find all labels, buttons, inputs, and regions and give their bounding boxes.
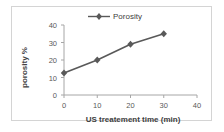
chart-plot-frame: Porosity 40 30 20 10 0 xyxy=(11,6,212,121)
data-point-marker xyxy=(94,57,100,64)
data-point-marker xyxy=(127,41,133,48)
x-tick-label-20: 20 xyxy=(126,101,134,110)
y-tick-label-10: 10 xyxy=(49,74,57,83)
x-tick-label-10: 10 xyxy=(93,101,101,110)
x-axis-title: US treatement time (min) xyxy=(48,115,218,124)
y-axis-title: porosity % xyxy=(20,38,29,98)
x-tick-label-40: 40 xyxy=(193,101,201,110)
x-tick-label-30: 30 xyxy=(160,101,168,110)
data-point-marker xyxy=(161,30,167,37)
chart-plot-area: 40 30 20 10 0 0 10 20 30 40 xyxy=(12,7,213,122)
y-tick-label-30: 30 xyxy=(49,39,57,48)
y-tick-label-40: 40 xyxy=(49,21,57,30)
chart-figure: Porosity 40 30 20 10 0 xyxy=(0,0,224,132)
data-point-marker xyxy=(61,70,67,77)
x-tick-label-0: 0 xyxy=(62,101,66,110)
y-tick-label-20: 20 xyxy=(49,56,57,65)
y-tick-label-0: 0 xyxy=(53,91,57,100)
series-line-porosity xyxy=(64,34,164,73)
